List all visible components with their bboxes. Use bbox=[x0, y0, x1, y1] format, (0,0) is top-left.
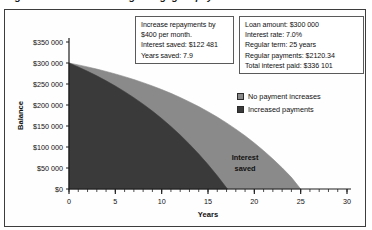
regular-payments-line: Regular payments: $2120.34 bbox=[245, 51, 359, 61]
x-tick-label: 0 bbox=[67, 197, 71, 206]
y-tick-label: $200 000 bbox=[33, 101, 63, 110]
y-tick-label: $100 000 bbox=[33, 143, 63, 152]
y-tick-label: $300 000 bbox=[33, 59, 63, 68]
legend-label-increased-payments: Increased payments bbox=[248, 105, 314, 114]
legend-swatch-icon-light bbox=[237, 93, 244, 100]
y-tick-label: $50 000 bbox=[37, 164, 63, 173]
x-tick-label: 20 bbox=[250, 197, 258, 206]
interest-rate-line: Interest rate: 7.0% bbox=[245, 30, 359, 40]
x-axis-title: Years bbox=[198, 210, 218, 219]
clipped-title-strip: Figure: Effect of increasing mortgage re… bbox=[0, 0, 372, 9]
assumption-textbox: Increase repayments by $400 per month. I… bbox=[135, 16, 234, 64]
loan-details-textbox: Loan amount: $300 000 Interest rate: 7.0… bbox=[239, 16, 364, 74]
y-tick-label: $250 000 bbox=[33, 80, 63, 89]
x-tick-label: 30 bbox=[343, 197, 351, 206]
legend-item-increased-payments: Increased payments bbox=[237, 105, 321, 114]
assumption-line-4: Years saved: 7.9 bbox=[141, 51, 229, 61]
legend-label-no-payment-increases: No payment increases bbox=[248, 92, 321, 101]
x-tick-label: 25 bbox=[297, 197, 305, 206]
x-tick-label: 5 bbox=[113, 197, 117, 206]
annotation-interest-saved-line2: saved bbox=[235, 164, 256, 173]
annotation-interest-saved-line1: Interest bbox=[232, 153, 259, 162]
assumption-line-1: Increase repayments by bbox=[141, 20, 229, 30]
loan-amount-line: Loan amount: $300 000 bbox=[245, 20, 359, 30]
chart-figure-frame: Interestsaved$0$50 000$100 000$150 000$2… bbox=[4, 9, 366, 227]
regular-term-line: Regular term: 25 years bbox=[245, 40, 359, 50]
legend-swatch-icon-dark bbox=[237, 106, 244, 113]
y-tick-label: $350 000 bbox=[33, 38, 63, 47]
chart-legend: No payment increases Increased payments bbox=[237, 92, 321, 118]
y-axis-title: Balance bbox=[16, 101, 25, 130]
x-tick-label: 10 bbox=[158, 197, 166, 206]
assumption-line-2: $400 per month. bbox=[141, 30, 229, 40]
x-tick-label: 15 bbox=[204, 197, 212, 206]
total-interest-line: Total interest paid: $336 101 bbox=[245, 61, 359, 71]
y-tick-label: $150 000 bbox=[33, 122, 63, 131]
page-title: Figure: Effect of increasing mortgage re… bbox=[6, 0, 243, 2]
assumption-line-3: Interest saved: $122 481 bbox=[141, 40, 229, 50]
y-tick-label: $0 bbox=[55, 185, 63, 194]
legend-item-no-payment-increases: No payment increases bbox=[237, 92, 321, 101]
